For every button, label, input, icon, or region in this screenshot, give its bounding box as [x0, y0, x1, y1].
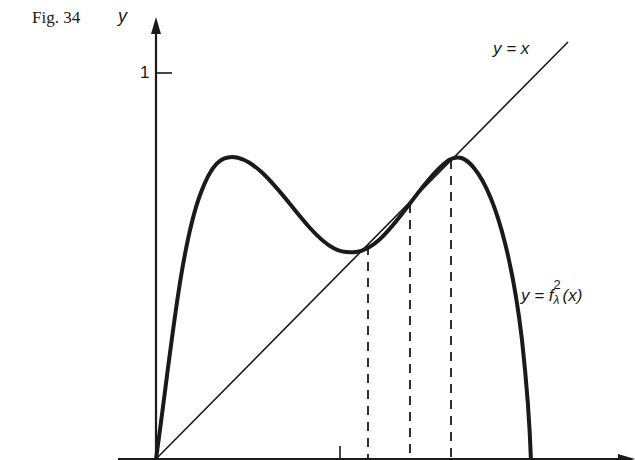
plot-area	[0, 0, 635, 460]
curve-label-suffix: (x)	[563, 286, 583, 305]
curve-label-sup: 2	[554, 277, 561, 292]
y-tick-label: 1	[140, 63, 149, 83]
curve-label-sub: λ	[554, 293, 560, 307]
curve-label-prefix: y = f	[521, 286, 554, 305]
x-axis-arrow-icon	[618, 454, 635, 460]
y-axis-label: y	[118, 6, 127, 27]
diagonal-label: y = x	[493, 39, 529, 59]
curve-label: y = f2λ (x)	[521, 286, 582, 306]
f-lambda-squared-curve	[156, 157, 531, 460]
y-axis-arrow-icon	[151, 17, 161, 34]
